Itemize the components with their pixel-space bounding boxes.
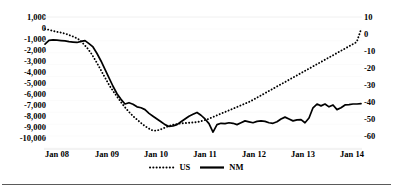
legend-entry-us: US xyxy=(149,163,190,172)
legend-entry-nm: NM xyxy=(199,163,243,172)
legend-label-us: US xyxy=(179,163,190,172)
series-line-us xyxy=(45,29,361,131)
legend-swatch-dotted-icon xyxy=(149,163,175,172)
gridlines xyxy=(44,17,362,148)
chart-container: 1,000 0 -1,000 -2,000 -3,000 -4,000 -5,0… xyxy=(0,0,393,191)
legend-label-nm: NM xyxy=(229,163,243,172)
chart-legend: US NM xyxy=(0,163,393,172)
series-line-nm xyxy=(45,40,361,132)
footer-divider xyxy=(2,184,391,185)
legend-swatch-solid-icon xyxy=(199,163,225,172)
